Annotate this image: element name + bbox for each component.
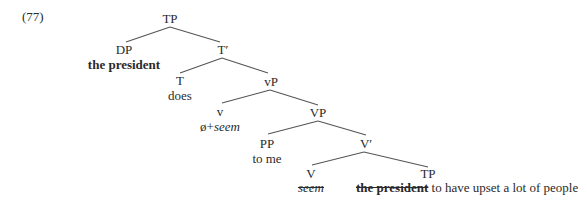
terminal-tp-embedded: the president to have upset a lot of peo… bbox=[356, 180, 578, 196]
example-number: (77) bbox=[22, 9, 44, 25]
terminal-v-trace: seem bbox=[298, 181, 324, 195]
node-tbar: T′ bbox=[218, 43, 229, 57]
null-prefix: ø+ bbox=[200, 119, 214, 134]
node-v-small: v bbox=[217, 105, 224, 119]
node-t: T bbox=[176, 74, 184, 88]
edge-vp-v bbox=[222, 90, 270, 103]
node-vp-small: vP bbox=[264, 75, 278, 89]
edge-vp-pp bbox=[268, 121, 318, 134]
terminal-t: does bbox=[168, 89, 192, 103]
edge-tp-dp bbox=[126, 27, 170, 42]
terminal-v-small: ø+seem bbox=[200, 120, 240, 134]
node-vp: VP bbox=[310, 106, 327, 120]
edge-tbar-vp bbox=[222, 58, 268, 73]
seem-word: seem bbox=[214, 119, 240, 134]
node-pp: PP bbox=[260, 137, 274, 151]
node-vbar: V′ bbox=[360, 137, 372, 151]
node-dp: DP bbox=[116, 43, 133, 57]
terminal-dp: the president bbox=[88, 58, 160, 72]
node-v: V bbox=[306, 167, 315, 181]
edge-tp-tbar bbox=[170, 27, 220, 42]
edge-vp-vbar bbox=[318, 121, 366, 135]
struck-subject: the president bbox=[356, 180, 428, 195]
edge-tbar-t bbox=[180, 58, 222, 73]
edge-vbar-tp bbox=[364, 152, 428, 167]
edge-vp-vp bbox=[270, 90, 318, 105]
edge-vbar-v bbox=[312, 152, 364, 165]
node-tp: TP bbox=[162, 12, 177, 26]
terminal-pp: to me bbox=[252, 152, 281, 166]
infinitival-clause: to have upset a lot of people bbox=[432, 180, 578, 195]
node-tp-embedded: TP bbox=[420, 167, 435, 181]
